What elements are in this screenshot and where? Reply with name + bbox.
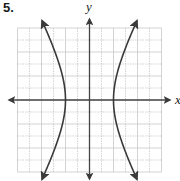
hyperbola-graph: y x — [0, 0, 180, 181]
x-axis-label: x — [174, 92, 180, 107]
y-axis-label: y — [84, 0, 92, 14]
coordinate-axes — [9, 19, 170, 179]
